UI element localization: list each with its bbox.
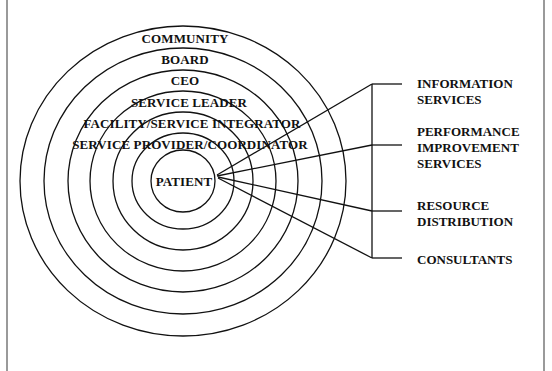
ring-label-service-provider: SERVICE PROVIDER/COORDINATOR [72,137,308,152]
center-label-patient: PATIENT [156,174,213,189]
support-label-information-services: INFORMATION SERVICES [417,76,513,108]
support-label-resource-distribution: RESOURCE DISTRIBUTION [417,198,513,230]
support-label-performance-improvement: PERFORMANCE IMPROVEMENT SERVICES [417,124,520,172]
support-label-line: IMPROVEMENT [417,140,520,156]
rings-and-connectors [0,0,552,371]
support-label-line: DISTRIBUTION [417,214,513,230]
ring-label-service-leader: SERVICE LEADER [131,95,247,110]
support-label-line: PERFORMANCE [417,124,520,140]
support-label-consultants: CONSULTANTS [417,252,512,268]
support-label-line: SERVICES [417,92,513,108]
support-label-line: CONSULTANTS [417,252,512,268]
support-label-line: INFORMATION [417,76,513,92]
ring-label-facility-integrator: FACILITY/SERVICE INTEGRATOR [83,116,300,131]
ring-label-community: COMMUNITY [142,31,229,46]
support-label-line: RESOURCE [417,198,513,214]
ring-label-ceo: CEO [171,73,199,88]
ring-label-board: BOARD [161,52,208,67]
support-label-line: SERVICES [417,156,520,172]
connector-consultants [218,178,372,258]
